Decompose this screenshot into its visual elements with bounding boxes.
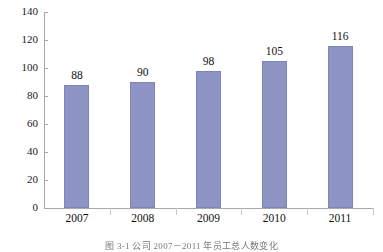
bar-value-label: 90 bbox=[123, 67, 163, 79]
value-axis-tick-label: 100 bbox=[4, 62, 38, 73]
value-axis-tick-label: 40 bbox=[4, 146, 38, 157]
category-axis-label: 2010 bbox=[249, 213, 299, 225]
category-separator bbox=[241, 208, 242, 215]
value-axis-tick bbox=[44, 12, 48, 13]
category-separator bbox=[110, 208, 111, 215]
category-axis-label: 2009 bbox=[184, 213, 234, 225]
category-axis-label: 2007 bbox=[52, 213, 102, 225]
bar-value-label: 98 bbox=[189, 56, 229, 68]
value-axis-tick-label: 20 bbox=[4, 174, 38, 185]
value-axis-tick bbox=[44, 68, 48, 69]
value-axis-tick-label: 80 bbox=[4, 90, 38, 101]
bar-value-label: 116 bbox=[320, 31, 360, 43]
value-axis-tick-label: 140 bbox=[4, 6, 38, 17]
bar-value-label: 88 bbox=[57, 70, 97, 82]
figure-caption: 图 3-1 公司 2007－2011 年员工总人数变化 bbox=[0, 239, 383, 252]
bar bbox=[64, 85, 89, 208]
value-axis-tick bbox=[44, 40, 48, 41]
value-axis-tick bbox=[44, 152, 48, 153]
bar bbox=[130, 82, 155, 208]
category-axis-label: 2011 bbox=[315, 213, 365, 225]
category-separator bbox=[373, 208, 374, 215]
value-axis-tick-label: 0 bbox=[4, 202, 38, 213]
category-axis-line bbox=[44, 208, 373, 209]
category-separator bbox=[307, 208, 308, 215]
value-axis-tick bbox=[44, 180, 48, 181]
value-axis-tick bbox=[44, 208, 48, 209]
bar bbox=[262, 61, 287, 208]
value-axis-tick bbox=[44, 96, 48, 97]
bar bbox=[196, 71, 221, 208]
bar bbox=[328, 46, 353, 208]
category-axis-label: 2008 bbox=[118, 213, 168, 225]
bar-value-label: 105 bbox=[254, 46, 294, 58]
value-axis-tick-label: 60 bbox=[4, 118, 38, 129]
value-axis-tick-label: 120 bbox=[4, 34, 38, 45]
category-separator bbox=[176, 208, 177, 215]
value-axis-tick bbox=[44, 124, 48, 125]
